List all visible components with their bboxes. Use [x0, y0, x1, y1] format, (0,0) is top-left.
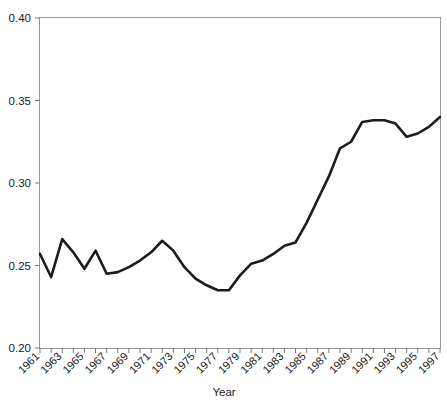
x-axis-tick-label: 1989 [327, 350, 353, 376]
x-axis-tick-label: 1965 [60, 350, 86, 376]
y-axis-tick-label: 0.20 [9, 342, 31, 354]
plot-frame [40, 18, 441, 349]
x-axis-title: Year [212, 386, 235, 398]
x-axis-tick-label: 1967 [82, 350, 108, 376]
data-series-line [40, 117, 440, 290]
x-axis-tick-label: 1971 [127, 350, 153, 376]
x-axis-tick-label: 1981 [238, 350, 264, 376]
x-axis-tick-label: 1997 [416, 350, 442, 376]
plot-area-border [40, 18, 441, 349]
x-axis-tick-label: 1963 [38, 350, 64, 376]
x-axis-tick-label: 1995 [393, 350, 419, 376]
y-axis-tick-label: 0.35 [9, 95, 31, 107]
x-axis-tick-label: 1975 [171, 350, 197, 376]
x-axis-tick-label: 1985 [282, 350, 308, 376]
line-chart: 0.200.250.300.350.40 1961196319651967196… [0, 0, 447, 407]
y-axis-tick-label: 0.25 [9, 260, 31, 272]
x-axis-tick-label: 1979 [216, 350, 242, 376]
y-axis-tick-labels: 0.200.250.300.350.40 [9, 12, 31, 354]
chart-svg: 0.200.250.300.350.40 1961196319651967196… [0, 0, 447, 407]
x-axis-tick-label: 1973 [149, 350, 175, 376]
x-axis-tick-label: 1987 [305, 350, 331, 376]
x-axis-tick-label: 1969 [105, 350, 131, 376]
x-axis-tick-labels: 1961196319651967196919711973197519771979… [16, 350, 442, 376]
x-axis-tick-label: 1977 [193, 350, 219, 376]
x-axis-tick-label: 1991 [349, 350, 375, 376]
x-axis-tick-label: 1983 [260, 350, 286, 376]
x-axis-tick-label: 1993 [371, 350, 397, 376]
y-axis-tick-label: 0.30 [9, 177, 31, 189]
y-axis-tick-label: 0.40 [9, 12, 31, 24]
